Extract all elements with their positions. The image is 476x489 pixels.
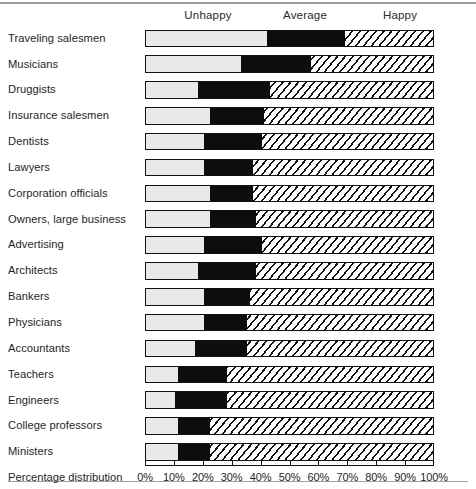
bar-segment-unhappy xyxy=(146,392,175,408)
bar-segment-happy xyxy=(250,289,434,305)
bar-row xyxy=(145,366,434,384)
bar-segment-unhappy xyxy=(146,134,204,150)
bar-segment-average xyxy=(204,315,247,331)
bar-segment-happy xyxy=(262,237,434,253)
bar-segment-unhappy xyxy=(146,367,178,383)
axis-tick-label: 10% xyxy=(163,471,185,483)
category-label: Architects xyxy=(8,265,58,276)
axis-tick-label: 70% xyxy=(336,471,358,483)
bar-segment-happy xyxy=(256,211,434,227)
bar-row xyxy=(145,391,434,409)
bar-segment-unhappy xyxy=(146,263,198,279)
category-label: Musicians xyxy=(8,59,58,70)
category-label: Lawyers xyxy=(8,162,50,173)
axis-title: Percentage distribution xyxy=(8,471,122,483)
bar-segment-unhappy xyxy=(146,418,178,434)
axis-tick-label: 100% xyxy=(420,471,448,483)
bar-segment-unhappy xyxy=(146,56,241,72)
bar-segment-unhappy xyxy=(146,289,204,305)
axis-tick xyxy=(405,461,406,466)
chart-figure: UnhappyAverageHappy Traveling salesmenMu… xyxy=(0,0,476,489)
bar-row xyxy=(145,133,434,151)
bar-segment-unhappy xyxy=(146,237,204,253)
axis-tick-label: 0% xyxy=(137,471,153,483)
category-label: Dentists xyxy=(8,136,49,147)
bar-segment-unhappy xyxy=(146,211,210,227)
axis-tick-label: 20% xyxy=(192,471,214,483)
axis-tick-label: 80% xyxy=(365,471,387,483)
bar-segment-happy xyxy=(264,108,434,124)
bar-segment-unhappy xyxy=(146,444,178,460)
axis-tick xyxy=(290,461,291,466)
bar-segment-average xyxy=(204,134,262,150)
segment-header-happy: Happy xyxy=(383,9,417,21)
bar-segment-average xyxy=(210,108,265,124)
bar-segment-average xyxy=(241,56,310,72)
bar-row xyxy=(145,288,434,306)
bar-row xyxy=(145,417,434,435)
axis-tick xyxy=(261,461,262,466)
bar-segment-average xyxy=(178,418,210,434)
bar-segment-unhappy xyxy=(146,108,210,124)
axis-tick xyxy=(376,461,377,466)
bar-row xyxy=(145,107,434,125)
bar-segment-happy xyxy=(227,367,434,383)
category-label: Accountants xyxy=(8,343,70,354)
bar-segment-unhappy xyxy=(146,31,267,47)
bar-row xyxy=(145,159,434,177)
axis-tick xyxy=(318,461,319,466)
bar-segment-unhappy xyxy=(146,160,204,176)
segment-header-unhappy: Unhappy xyxy=(184,9,231,21)
bar-segment-average xyxy=(198,263,256,279)
axis-tick-label: 30% xyxy=(221,471,243,483)
bar-row xyxy=(145,443,434,461)
bar-segment-happy xyxy=(253,186,434,202)
bar-segment-happy xyxy=(210,418,434,434)
segment-header-average: Average xyxy=(283,9,327,21)
bar-segment-average xyxy=(210,211,256,227)
category-label: Druggists xyxy=(8,84,56,95)
bar-row xyxy=(145,262,434,280)
category-label: Physicians xyxy=(8,317,62,328)
bar-segment-average xyxy=(198,82,270,98)
category-label: College professors xyxy=(8,420,102,431)
bar-segment-happy xyxy=(247,341,434,357)
bar-segment-happy xyxy=(210,444,434,460)
category-label: Advertising xyxy=(8,239,64,250)
category-label: Teachers xyxy=(8,369,54,380)
category-label: Ministers xyxy=(8,446,53,457)
axis-tick-label: 60% xyxy=(308,471,330,483)
bar-segment-happy xyxy=(253,160,434,176)
axis-tick xyxy=(203,461,204,466)
axis-tick xyxy=(145,461,146,466)
bar-segment-average xyxy=(204,289,250,305)
axis-tick-label: 40% xyxy=(250,471,272,483)
category-label: Owners, large business xyxy=(8,214,126,225)
axis-tick xyxy=(232,461,233,466)
bar-segment-average xyxy=(204,160,253,176)
bar-segment-average xyxy=(204,237,262,253)
category-label: Insurance salesmen xyxy=(8,110,109,121)
bar-segment-unhappy xyxy=(146,341,195,357)
category-label: Engineers xyxy=(8,395,59,406)
bar-row xyxy=(145,30,434,48)
axis-tick-label: 90% xyxy=(394,471,416,483)
category-label: Bankers xyxy=(8,291,49,302)
bar-segment-happy xyxy=(256,263,434,279)
axis-tick xyxy=(174,461,175,466)
bar-segment-unhappy xyxy=(146,82,198,98)
bar-segment-average xyxy=(175,392,227,408)
top-rule xyxy=(0,2,476,4)
bar-segment-average xyxy=(267,31,345,47)
bar-row xyxy=(145,81,434,99)
axis-tick-label: 50% xyxy=(279,471,301,483)
bar-row xyxy=(145,314,434,332)
bar-row xyxy=(145,55,434,73)
bar-segment-average xyxy=(210,186,253,202)
category-label: Corporation officials xyxy=(8,188,108,199)
bar-segment-average xyxy=(178,444,210,460)
bar-segment-happy xyxy=(227,392,434,408)
bar-segment-happy xyxy=(270,82,434,98)
category-label: Traveling salesmen xyxy=(8,33,105,44)
bar-row xyxy=(145,210,434,228)
